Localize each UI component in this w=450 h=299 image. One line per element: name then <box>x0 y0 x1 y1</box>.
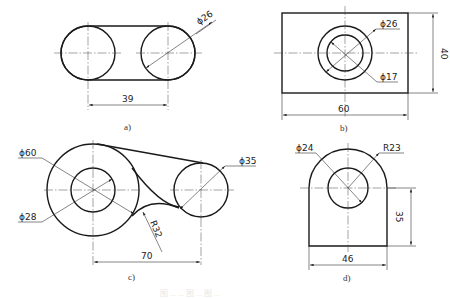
dim-d-hole-diameter: ϕ24 <box>296 143 314 153</box>
dim-d-width: 46 <box>342 254 354 264</box>
dim-b-height: 40 <box>439 48 449 60</box>
caption-d: d) <box>343 273 351 283</box>
figure-a <box>54 20 216 110</box>
dim-b-outer-diameter: ϕ26 <box>380 19 398 29</box>
dim-b-width: 60 <box>338 104 350 114</box>
caption-b: b) <box>340 123 348 133</box>
dim-b-inner-diameter: ϕ17 <box>380 72 397 82</box>
dim-a-diameter: ϕ26 <box>195 8 215 26</box>
dim-c-large-diameter: ϕ60 <box>19 148 37 158</box>
caption-a: a) <box>124 122 131 132</box>
dim-c-hole-diameter: ϕ28 <box>19 212 37 222</box>
figure-d <box>295 143 416 270</box>
dim-c-fillet-radius: R32 <box>148 219 164 239</box>
dim-d-arc-radius: R23 <box>383 143 401 153</box>
caption-c: c) <box>128 272 135 282</box>
dim-c-small-diameter: ϕ35 <box>239 156 256 166</box>
technical-drawing-sheet: ϕ26 39 a) ϕ26 ϕ17 60 40 b) <box>0 0 450 299</box>
dim-c-center-distance: 70 <box>141 251 153 261</box>
dim-d-height: 35 <box>394 211 404 222</box>
figure-c <box>18 140 256 265</box>
footer-caption: 图 ... ... 图 ... 图 ... <box>160 289 220 298</box>
dim-a-center-distance: 39 <box>122 94 134 104</box>
figure-b <box>274 6 438 120</box>
